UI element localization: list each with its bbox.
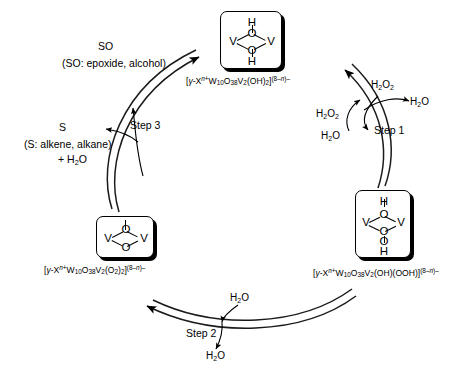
species-box-bottom-left: O V V O [96, 216, 154, 258]
formula-top: [γ-Xn+W10O38V2(OH)2](8–n)– [186, 74, 290, 88]
step3-product-symbol: SO [98, 40, 113, 52]
structure-dihydroxo: H O V V O H [221, 12, 281, 68]
atom-h-top: H [380, 196, 388, 208]
formula-bottom-left: [γ-Xn+W10O38V2(O2)2](8–n)– [44, 263, 145, 277]
structure-diperoxo: O V V O [97, 217, 153, 257]
step1-label: Step 1 [374, 124, 404, 136]
step3-product-note: (SO: epoxide, alcohol) [62, 57, 166, 69]
atom-o-bottom: O [122, 242, 131, 254]
step2-label: Step 2 [186, 327, 216, 339]
atom-o-top: O [122, 224, 131, 236]
species-box-bottom-right: H O V V O O H [355, 190, 411, 258]
atom-v-left: V [104, 233, 112, 245]
atom-v-left: V [229, 36, 237, 48]
step3-substrate-note: (S: alkene, alkane) [24, 138, 112, 150]
step3-substrate-symbol: S [59, 121, 66, 133]
species-box-top: H O V V O H [220, 11, 282, 69]
structure-hydroxo-hydroperoxo: H O V V O O H [356, 191, 410, 257]
atom-o-bridge: O [380, 209, 389, 221]
formula-bottom-right: [γ-Xn+W10O38V2(OH)(OOH)](8–n)– [313, 266, 439, 280]
step3-substrate-extra: + H2O [58, 153, 87, 169]
atom-h-bottom: H [248, 56, 256, 68]
atom-o-upper: O [248, 28, 257, 40]
atom-v-right: V [140, 233, 148, 245]
step1-product-h2o-lower: H2O [321, 130, 340, 144]
step1-in-arrow-lower [347, 100, 360, 131]
step2-product-h2o: H2O [206, 350, 225, 364]
step1-reagent-h2o2-lower: H2O2 [316, 108, 339, 122]
step3-label: Step 3 [130, 119, 160, 131]
atom-v-left: V [362, 217, 370, 229]
atom-v-right: V [267, 36, 275, 48]
step2-reagent-h2o: H2O [230, 292, 249, 306]
atom-v-right: V [397, 217, 405, 229]
step1-reagent-h2o2-upper: H2O2 [371, 79, 394, 93]
step1-product-h2o-upper: H2O [410, 96, 429, 110]
diagram-canvas: H O V V O H [γ-Xn+W10O38V2(OH)2](8–n)– H… [0, 0, 475, 373]
atom-h-bottom: H [380, 246, 388, 258]
cycle-arc-bottom [147, 289, 356, 328]
